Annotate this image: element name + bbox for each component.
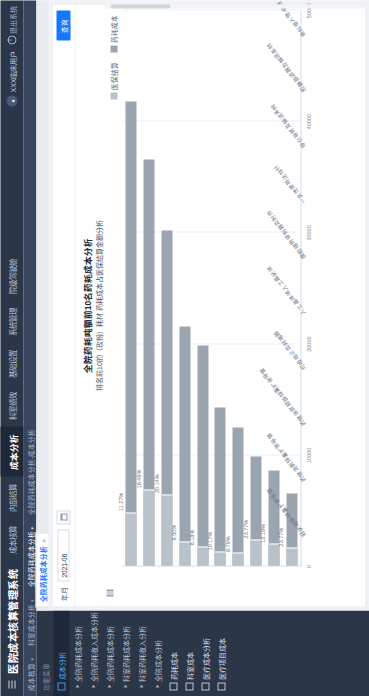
sidebar-item-label: 全院成本分析 <box>152 639 162 681</box>
bar-segment-cost <box>214 551 225 565</box>
sidebar-item-label: 全院药耗成本分析 <box>72 625 82 681</box>
bar-total[interactable] <box>143 159 154 565</box>
caret-icon <box>139 684 143 687</box>
sidebar-item-label: 全院药耗收入成本分析 <box>88 611 98 681</box>
query-button[interactable]: 查询 <box>56 10 70 40</box>
chevron-down-icon: ▾ <box>28 599 34 602</box>
top-bar-right: ● XXX临床用户 退出系统 <box>6 0 17 106</box>
bar-total[interactable] <box>268 470 279 565</box>
bar-percent-label: 8.18% <box>188 529 194 545</box>
bar-percent-label: 11.27% <box>117 492 123 510</box>
calendar-icon[interactable] <box>56 510 70 524</box>
bar-percent-label: 8.79% <box>224 536 230 552</box>
folder-icon <box>217 682 225 690</box>
nav-item-department-performance[interactable]: 科室绩效 <box>0 384 23 426</box>
sidebar-item-label: 药耗成本 <box>168 651 178 679</box>
caret-icon <box>75 684 79 687</box>
sidebar-item-department-cost[interactable]: 科室成本 <box>181 610 197 696</box>
chart-toolbox-icon[interactable] <box>106 590 113 597</box>
bar-total[interactable] <box>250 456 261 565</box>
breadcrumb-label-3: 全院药耗成本分析-成本分析 <box>27 428 34 514</box>
tab-strip: 全院药耗成本分析× <box>36 0 48 610</box>
legend-item-insurance[interactable]: 医保结算 <box>108 61 118 99</box>
page-title: 全院药耗吨额前10名药耗成本分析 <box>75 4 93 606</box>
legend-item-drug-cost[interactable]: 药耗成本 <box>108 14 118 52</box>
bar-segment-cost <box>268 543 279 565</box>
sidebar-item-department-drug-income-analysis[interactable]: 科室药耗收入分析 <box>133 610 149 696</box>
chart-bar-row[interactable]: 8.18% <box>193 10 211 565</box>
bar-percent-label: 20.14% <box>153 474 159 493</box>
breadcrumb-item-2[interactable]: 全院药耗成本分析▾ <box>25 520 35 593</box>
nav-item-hospital-cockpit[interactable]: 院级驾驶舱 <box>0 251 23 300</box>
chart-card: 年月 2021-06 查询 全院药耗吨额前10名药耗成本分析 排名前10的（玫粉… <box>51 3 366 607</box>
bar-total[interactable] <box>161 230 172 565</box>
sidebar-item-label: 科室成本 <box>184 651 194 679</box>
chevron-down-icon: ▾ <box>28 526 34 529</box>
chart-legend: 医保结算 药耗成本 <box>108 14 118 99</box>
bar-segment-cost <box>143 489 154 565</box>
caret-icon <box>155 684 159 687</box>
sidebar-item-cost-analysis[interactable]: 成本分析 <box>53 610 69 696</box>
close-icon[interactable]: × <box>40 538 46 542</box>
chart-bar-row[interactable]: 23.77% <box>247 10 265 565</box>
sidebar-item-department-drug-cost-analysis[interactable]: 科室药耗成本分析 <box>117 610 133 696</box>
legend-label: 药耗成本 <box>108 14 118 42</box>
breadcrumb: 成本核算▾ 科室成本分析▾ 全院药耗成本分析▾ 全院药耗成本分析-成本分析 <box>23 0 36 696</box>
bar-segment-cost <box>250 539 261 565</box>
caret-icon <box>107 684 111 687</box>
breadcrumb-item-3[interactable]: 全院药耗成本分析-成本分析 <box>25 422 35 520</box>
sidebar-item-label: 成本分析 <box>56 651 66 679</box>
vertical-scrollbar[interactable] <box>104 4 365 8</box>
chart-bar-row[interactable]: 20.14% <box>158 10 176 565</box>
app-title: 医院成本核算管理系统 <box>4 568 19 673</box>
bar-total[interactable] <box>232 427 243 565</box>
sidebar-item-label: 医疗项目成本 <box>216 637 226 679</box>
bar-percent-label: 23.77% <box>242 519 248 538</box>
chevron-down-icon: ▾ <box>28 657 34 660</box>
chart-bar-row[interactable]: 9.50% <box>175 10 193 565</box>
sidebar-item-medical-project-cost[interactable]: 医疗项目成本 <box>213 610 229 696</box>
sidebar: 功能菜单 成本分析 全院药耗成本分析 全院药耗收入成本分析 全院药耗成本分析 <box>36 610 369 696</box>
breadcrumb-item-1[interactable]: 科室成本分析▾ <box>25 593 35 652</box>
bar-segment-cost <box>232 552 243 565</box>
breadcrumb-item-0[interactable]: 成本核算▾ <box>25 651 35 696</box>
legend-swatch <box>110 92 117 99</box>
sidebar-item-label: 全院药耗成本分析 <box>104 625 114 681</box>
nav-item-basic-settings[interactable]: 基础设置 <box>0 342 23 384</box>
sidebar-item-medical-cost-analysis[interactable]: 医疗成本分析 <box>197 610 213 696</box>
logout-button[interactable]: 退出系统 <box>7 5 17 44</box>
tab-hospital-drug-cost-analysis[interactable]: 全院药耗成本分析× <box>35 532 48 607</box>
chart-bar-row[interactable]: 10.17% <box>211 10 229 565</box>
folder-icon <box>57 682 65 690</box>
rotated-screen-frame: 医院成本核算管理系统 成本核算 内部结算 成本分析 科室绩效 基础设置 系统管理… <box>0 0 369 696</box>
sidebar-item-label: 科室药耗成本分析 <box>120 625 130 681</box>
user-chip[interactable]: ● XXX临床用户 <box>6 50 17 106</box>
top-navigation: 成本核算 内部结算 成本分析 科室绩效 基础设置 系统管理 院级驾驶舱 <box>0 251 23 560</box>
caret-icon <box>123 684 127 687</box>
sidebar-item-hospital-drug-income-cost-analysis[interactable]: 全院药耗收入成本分析 <box>85 610 101 696</box>
sidebar-item-label: 科室药耗收入分析 <box>136 625 146 681</box>
bar-segment-cost <box>286 547 297 565</box>
period-input[interactable]: 2021-06 <box>57 529 69 581</box>
chart-area: 医保结算 药耗成本 50000400003000020000100000 <box>104 4 365 606</box>
bar-percent-label: 18.49% <box>135 469 141 488</box>
chart-category-labels: 冠状动脉球囊扩张导管药物洗脱球囊扩张导管药物涂层冠脉球囊扩张导管可吸收止血封堵器… <box>301 10 359 566</box>
sidebar-item-drug-cost[interactable]: 药耗成本 <box>165 610 181 696</box>
legend-label: 医保结算 <box>108 61 118 89</box>
top-bar: 医院成本核算管理系统 成本核算 内部结算 成本分析 科室绩效 基础设置 系统管理… <box>0 0 23 696</box>
sidebar-item-hospital-drug-cost-analysis-2[interactable]: 全院药耗成本分析 <box>101 610 117 696</box>
nav-item-system-management[interactable]: 系统管理 <box>0 300 23 342</box>
avatar: ● <box>6 95 17 106</box>
hamburger-icon[interactable] <box>8 676 15 692</box>
folder-icon <box>169 682 177 690</box>
bar-percent-label: 10.17% <box>206 531 212 550</box>
nav-item-cost-analysis[interactable]: 成本分析 <box>0 426 23 476</box>
bar-total[interactable] <box>125 101 136 565</box>
sidebar-item-hospital-cost-analysis[interactable]: 全院成本分析 <box>149 610 165 696</box>
content-area: 全院药耗成本分析× 年月 2021-06 查询 全院药耗吨额前10名药耗成本分析… <box>36 0 369 610</box>
scrollbar-thumb[interactable] <box>110 4 170 8</box>
chart-bar-row[interactable]: 8.79% <box>229 10 247 565</box>
sidebar-item-hospital-drug-cost-analysis[interactable]: 全院药耗成本分析 <box>69 610 85 696</box>
nav-item-cost-accounting[interactable]: 成本核算 <box>0 518 23 560</box>
nav-item-internal-settlement[interactable]: 内部结算 <box>0 476 23 518</box>
